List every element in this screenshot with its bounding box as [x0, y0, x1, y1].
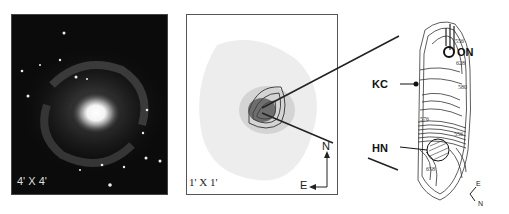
contour-value: 556: [455, 38, 464, 44]
east-label: E: [476, 180, 481, 187]
label-on: ON: [457, 46, 474, 58]
galaxy-graphic: [12, 15, 168, 195]
galaxy-image-panel: 4' X 4': [11, 14, 168, 195]
label-hn: HN: [372, 142, 388, 154]
scale-label: 4' X 4': [17, 175, 47, 187]
compass-arrows: [187, 15, 338, 195]
label-kc: KC: [372, 78, 388, 90]
contour-overlay-panel: 1' X 1' E N: [186, 14, 338, 195]
contour-value: 628: [456, 60, 465, 66]
north-label: N: [478, 200, 483, 207]
contour-map-panel: ON KC HN 556 628 580 576 556 658 E N: [400, 10, 509, 214]
contour-value: 576: [420, 116, 429, 122]
contour-value: 556: [454, 131, 463, 137]
contour-value: 580: [458, 84, 467, 90]
contour-value: 658: [426, 166, 435, 172]
